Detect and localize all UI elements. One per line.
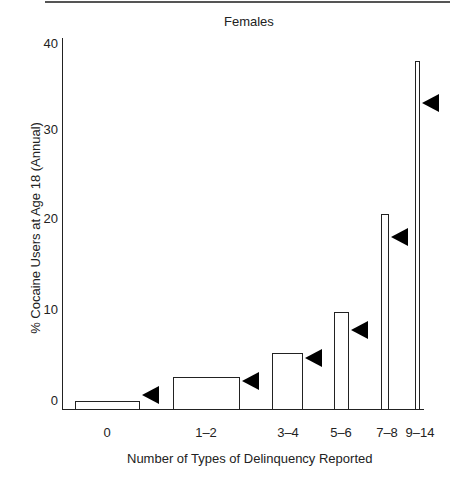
bar-3-4 [272,353,303,409]
marker-triangle-icon [142,386,159,404]
x-tick-0: 0 [103,425,110,440]
top-rule [45,1,450,3]
marker-triangle-icon [351,321,368,339]
marker-triangle-icon [391,228,408,246]
marker-triangle-icon [242,372,259,390]
x-tick-9-14: 9–14 [406,425,435,440]
x-tick-1-2: 1–2 [195,425,217,440]
x-tick-5-6: 5–6 [330,425,352,440]
bar-5-6 [334,312,349,409]
y-axis [62,38,63,410]
x-tick-3-4: 3–4 [277,425,299,440]
y-tick-30: 30 [36,122,58,137]
y-tick-0: 0 [36,393,58,408]
x-axis [62,409,424,410]
x-tick-7-8: 7–8 [376,425,398,440]
chart-title: Females [224,14,274,29]
bar-0 [75,401,140,409]
marker-triangle-icon [422,94,439,112]
y-tick-10: 10 [36,302,58,317]
y-tick-40: 40 [36,36,58,51]
marker-triangle-icon [305,349,322,367]
bar-9-14 [415,61,420,409]
bar-7-8 [381,214,389,409]
bar-1-2 [173,377,240,409]
x-axis-label: Number of Types of Delinquency Reported [127,451,372,466]
y-tick-20: 20 [36,211,58,226]
